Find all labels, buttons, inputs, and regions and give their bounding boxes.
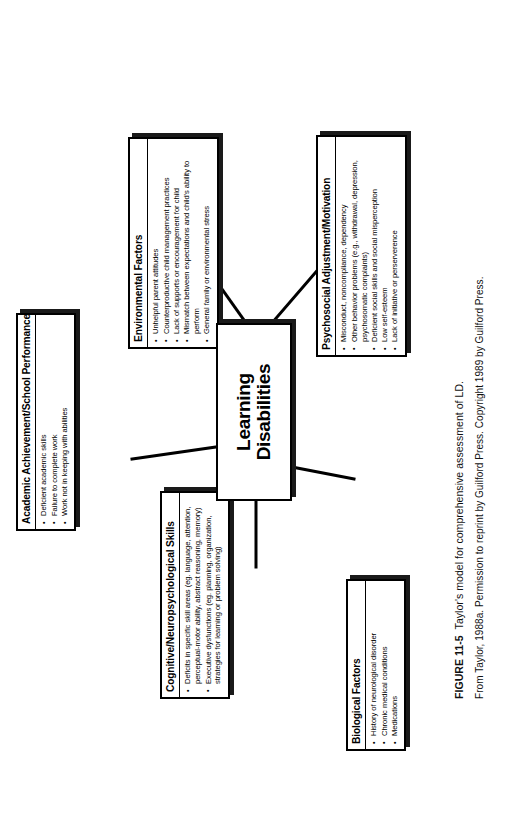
list-item: Counterproductive child management pract… (162, 144, 172, 342)
node-cognitive-title: Cognitive/Neuropsychological Skills (162, 493, 180, 697)
list-item: Low self-esteem (380, 142, 390, 350)
node-learning-disabilities[interactable]: Learning Disabilities (216, 323, 292, 501)
node-psychosocial-adjustment-motivation[interactable]: Psychosocial Adjustment/Motivation Misco… (316, 135, 407, 357)
hub-label-line2: Disabilities (254, 364, 274, 461)
node-psychosocial-title: Psychosocial Adjustment/Motivation (318, 137, 336, 355)
hub-label: Learning Disabilities (234, 364, 274, 461)
list-item: Executive dysfunctions (eg. planning, or… (204, 498, 224, 692)
bullet-list: Deficient academic skills Failure to com… (39, 320, 69, 524)
list-item: History of neurological disorder (369, 586, 379, 744)
list-item: Other behavior problems (e.g., withdrawa… (350, 142, 370, 350)
connector-hub-biological (292, 467, 354, 479)
list-item: Deficits in specific skill areas (eg. la… (183, 498, 203, 692)
list-item: Lack of supports or encouragement for ch… (172, 144, 182, 342)
list-item: Deficient social skills and social mispe… (370, 142, 380, 350)
list-item: Unhelpful parent attitudes (151, 144, 161, 342)
node-academic-achievement[interactable]: Academic Achievement/School Performance … (16, 313, 76, 531)
node-cognitive-neuropsychological-skills[interactable]: Cognitive/Neuropsychological Skills Defi… (160, 491, 230, 699)
bullet-list: History of neurological disorder Chronic… (369, 586, 399, 744)
bullet-list: Unhelpful parent attitudes Counterproduc… (151, 144, 212, 342)
list-item: Medications (390, 586, 400, 744)
list-item: Misconduct, noncompliance, dependency (339, 142, 349, 350)
bullet-list: Misconduct, noncompliance, dependency Ot… (339, 142, 400, 350)
node-environmental-factors[interactable]: Environmental Factors Unhelpful parent a… (128, 137, 219, 349)
node-environment-body: Unhelpful parent attitudes Counterproduc… (148, 139, 216, 347)
node-biological-body: History of neurological disorder Chronic… (366, 581, 404, 749)
node-biological-title: Biological Factors (348, 581, 366, 749)
list-item: Deficient academic skills (39, 320, 49, 524)
node-cognitive-body: Deficits in specific skill areas (eg. la… (180, 493, 227, 697)
figure-page: Academic Achievement/School Performance … (0, 0, 507, 819)
list-item: General family or environmental stress (202, 144, 212, 342)
list-item: Lack of initiative or perserverence (390, 142, 400, 350)
node-academic-title: Academic Achievement/School Performance (18, 315, 36, 529)
list-item: Work not in keeping with abilities (60, 320, 70, 524)
hub-label-line1: Learning (234, 364, 254, 461)
node-environment-title: Environmental Factors (130, 139, 148, 347)
node-biological-factors[interactable]: Biological Factors History of neurologic… (346, 579, 406, 751)
node-psychosocial-body: Misconduct, noncompliance, dependency Ot… (336, 137, 404, 355)
list-item: Failure to complete work (50, 320, 60, 524)
list-item: Chronic medical conditions (380, 586, 390, 744)
bullet-list: Deficits in specific skill areas (eg. la… (183, 498, 223, 692)
connector-hub-academic (132, 447, 216, 459)
node-academic-body: Deficient academic skills Failure to com… (36, 315, 74, 529)
list-item: Mismatch between expectations and child'… (182, 144, 202, 342)
